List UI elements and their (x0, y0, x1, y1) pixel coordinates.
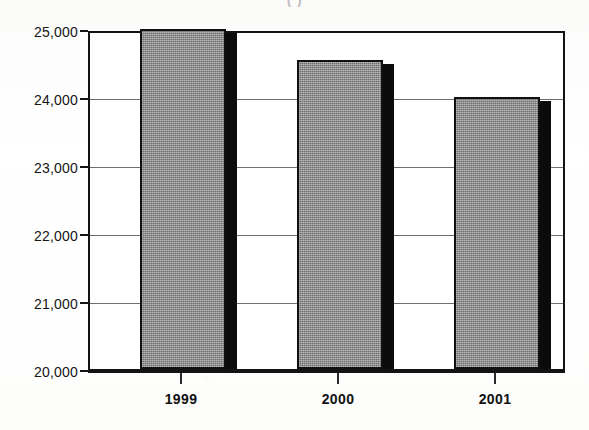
y-axis-tick-22000 (80, 234, 88, 236)
x-axis-label-2000: 2000 (278, 391, 398, 407)
y-axis-tick-21000 (80, 302, 88, 304)
x-axis-tick-1999 (180, 373, 182, 384)
y-axis-label-25000: 25,000 (8, 24, 78, 40)
x-axis-label-1999: 1999 (121, 391, 241, 407)
bar-2001 (454, 97, 540, 369)
y-axis-label-24000: 24,000 (8, 92, 78, 108)
x-axis-label-2001: 2001 (435, 391, 555, 407)
y-axis-label-20000: 20,000 (8, 364, 78, 380)
x-axis-tick-2000 (337, 373, 339, 384)
y-axis-label-23000: 23,000 (8, 160, 78, 176)
x-axis-tick-2001 (494, 373, 496, 384)
bar-chart: 25,000 24,000 23,000 22,000 21,000 20,00… (0, 0, 589, 430)
y-axis-label-22000: 22,000 (8, 228, 78, 244)
y-axis-label-21000: 21,000 (8, 296, 78, 312)
plot-area (88, 31, 565, 371)
bar-2000 (297, 60, 383, 369)
y-axis-tick-20000 (80, 370, 88, 372)
bar-1999 (140, 29, 226, 369)
y-axis-tick-23000 (80, 166, 88, 168)
y-axis-tick-25000 (80, 30, 88, 32)
y-axis-tick-24000 (80, 98, 88, 100)
